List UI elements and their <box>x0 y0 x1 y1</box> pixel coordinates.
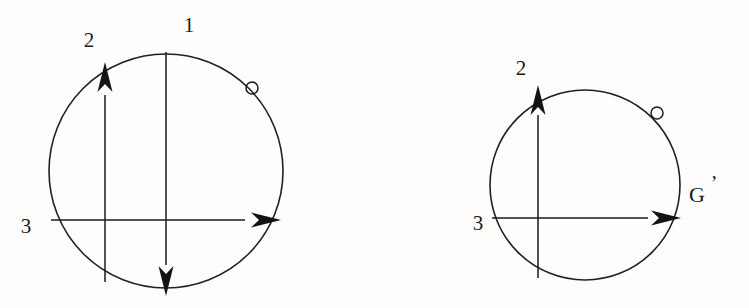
axis-3-arrowhead <box>251 213 281 228</box>
axis-1-arrowhead <box>159 266 174 296</box>
axis-2-group <box>98 62 113 282</box>
axis-1-group <box>159 52 174 296</box>
diagram-canvas: 1 2 3 2 <box>0 0 749 308</box>
axis-2-group <box>531 85 546 278</box>
axis-3-label: 3 <box>21 214 32 238</box>
axis-2-label: 2 <box>516 56 527 80</box>
axis-3-group <box>492 211 681 226</box>
axis-3-label: 3 <box>473 211 484 235</box>
axis-1-label: 1 <box>184 13 195 37</box>
axis-2-label: 2 <box>84 28 95 52</box>
diagram-original-frame: 1 2 3 <box>21 13 283 296</box>
frame-label-g: G <box>689 182 705 207</box>
pole-marker-icon <box>651 107 663 119</box>
figure-root: 1 2 3 2 <box>0 0 749 308</box>
frame-label-prime-mark: ’ <box>711 172 718 194</box>
sphere-outline <box>490 90 680 280</box>
diagram-rotated-frame: 2 3 G ’ <box>473 56 718 280</box>
axis-2-arrowhead <box>98 62 113 92</box>
